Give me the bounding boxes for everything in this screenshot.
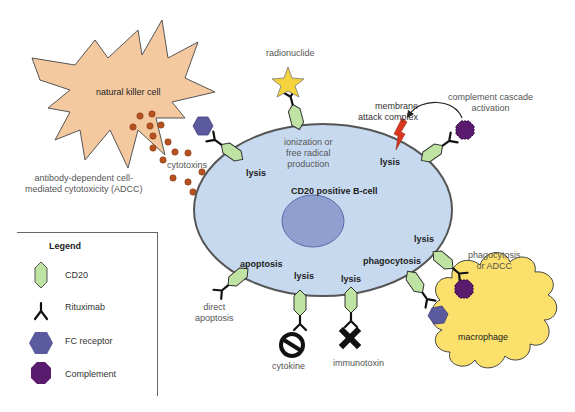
lysis-mac-label: lysis: [380, 157, 400, 168]
cd20-phagocytosis: [403, 268, 436, 308]
lysis-nk-label: lysis: [246, 168, 266, 179]
complement-icon: [31, 362, 51, 384]
cd20-immunotoxin: [345, 287, 357, 327]
nucleus: [282, 195, 344, 247]
lysis-bottom2-label: lysis: [341, 274, 361, 285]
membrane-attack-label: membrane attack complex: [358, 101, 418, 123]
cd20-top: [283, 89, 305, 131]
complement-macrophage: [455, 280, 473, 298]
radionuclide-star: [272, 67, 304, 97]
cd20-icon: [35, 262, 47, 288]
cd20-complement: [418, 133, 458, 166]
b-cell-label: CD20 positive B-cell: [291, 186, 378, 197]
ionization-label: ionization or free radical production: [284, 137, 333, 170]
legend-label-fc-receptor: FC receptor: [65, 336, 113, 346]
lysis-right-label: lysis: [414, 234, 434, 245]
complement-upper: [456, 121, 474, 139]
cytotoxins-label: cytotoxins: [167, 160, 207, 171]
phagocytosis-label: phagocytosis: [363, 256, 421, 267]
lysis-bottom1-label: lysis: [294, 271, 314, 282]
phago-adcc-label: phagocytosis or ADCC: [468, 250, 521, 272]
fc-receptor-icon: [29, 332, 53, 354]
rituximab-icon: [35, 303, 47, 319]
direct-apoptosis-label: direct apoptosis: [195, 302, 234, 324]
complement-cascade-label: complement cascade activation: [448, 92, 533, 114]
immunotoxin-label: immunotoxin: [333, 358, 384, 369]
legend-label-rituximab: Rituximab: [65, 302, 105, 312]
legend-label-cd20: CD20: [65, 270, 88, 280]
immunotoxin-icon: [343, 331, 357, 345]
adcc-label: antibody-dependent cell- mediated cytoto…: [25, 173, 143, 195]
fc-receptor-nk: [193, 117, 213, 135]
cytokine-label: cytokine: [272, 361, 305, 372]
macrophage-label: macrophage: [458, 332, 508, 343]
legend-box: Legend CD20 Rituximab FC receptor Comple…: [17, 232, 158, 396]
cytokine-icon: [281, 334, 303, 356]
apoptosis-label: apoptosis: [240, 259, 283, 270]
cd20-cytokine: [294, 290, 306, 330]
legend-label-complement: Complement: [65, 369, 116, 379]
radionuclide-label: radionuclide: [266, 48, 315, 59]
nk-cell-label: natural killer cell: [96, 87, 161, 98]
